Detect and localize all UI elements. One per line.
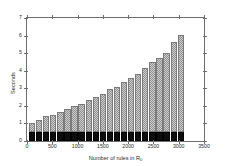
x-tick-label: 500 bbox=[48, 144, 57, 149]
y-tick-label: 4 bbox=[19, 68, 22, 73]
bar-stack bbox=[107, 89, 113, 141]
y-tick-right bbox=[203, 53, 207, 54]
bar-segment-mining bbox=[107, 89, 113, 132]
bar-stack bbox=[163, 53, 169, 141]
x-axis-title-subscript: 0 bbox=[140, 157, 142, 162]
y-tick bbox=[24, 106, 28, 107]
chart-container: Mining Preprocessing 0123456705001000150… bbox=[0, 0, 228, 166]
bar-segment-mining bbox=[36, 120, 42, 132]
bar-stack bbox=[171, 42, 177, 141]
y-tick bbox=[24, 36, 28, 37]
x-axis-title-text: Number of rules in R bbox=[89, 155, 140, 161]
y-tick bbox=[24, 71, 28, 72]
plot-inner bbox=[27, 18, 204, 141]
bar-stack bbox=[178, 35, 184, 141]
bar-segment-mining bbox=[178, 35, 184, 133]
plot-area: 012345670500100015002000250030003500 bbox=[26, 17, 205, 142]
bar-stack bbox=[121, 82, 127, 141]
bar-stack bbox=[71, 106, 77, 141]
bar-segment-preprocessing bbox=[86, 132, 92, 141]
y-tick-right bbox=[203, 123, 207, 124]
x-tick-top bbox=[52, 15, 53, 19]
bar-stack bbox=[78, 104, 84, 141]
bar-segment-preprocessing bbox=[135, 132, 141, 141]
bar-segment-mining bbox=[57, 112, 63, 132]
bar-stack bbox=[100, 94, 106, 141]
bar-segment-preprocessing bbox=[78, 132, 84, 141]
bar-segment-preprocessing bbox=[163, 132, 169, 141]
bar-segment-preprocessing bbox=[149, 132, 155, 141]
bar-segment-mining bbox=[156, 58, 162, 133]
x-tick-label: 3500 bbox=[198, 144, 210, 149]
bar-stack bbox=[64, 109, 70, 141]
y-tick-right bbox=[203, 71, 207, 72]
x-tick-top bbox=[179, 15, 180, 19]
bar-stack bbox=[29, 123, 35, 141]
y-tick-label: 1 bbox=[19, 121, 22, 126]
bar-segment-mining bbox=[171, 42, 177, 132]
y-tick-label: 5 bbox=[19, 51, 22, 56]
y-tick bbox=[24, 88, 28, 89]
x-tick-label: 1500 bbox=[97, 144, 109, 149]
x-tick-label: 1000 bbox=[72, 144, 84, 149]
bar-stack bbox=[114, 87, 120, 141]
bar-segment-mining bbox=[100, 94, 106, 133]
bar-stack bbox=[43, 116, 49, 141]
bar-segment-mining bbox=[114, 87, 120, 133]
bar-segment-mining bbox=[121, 82, 127, 132]
bar-segment-preprocessing bbox=[171, 132, 177, 141]
bar-stack bbox=[142, 68, 148, 141]
bar-stack bbox=[50, 115, 56, 141]
bar-segment-mining bbox=[86, 100, 92, 133]
bar-stack bbox=[149, 62, 155, 141]
bar-stack bbox=[156, 58, 162, 141]
bar-segment-mining bbox=[93, 97, 99, 132]
bar-stack bbox=[57, 112, 63, 141]
bar-segment-preprocessing bbox=[36, 132, 42, 141]
y-axis-title: Seconds bbox=[10, 72, 16, 94]
x-axis-title: Number of rules in R0 bbox=[26, 155, 205, 162]
bar-segment-preprocessing bbox=[121, 132, 127, 141]
y-tick-label: 6 bbox=[19, 33, 22, 38]
x-tick-label: 2000 bbox=[122, 144, 134, 149]
bar-stack bbox=[93, 97, 99, 141]
x-tick-top bbox=[204, 15, 205, 19]
bar-segment-preprocessing bbox=[114, 132, 120, 141]
bar-segment-mining bbox=[149, 62, 155, 132]
x-tick-top bbox=[103, 15, 104, 19]
bar-segment-preprocessing bbox=[93, 132, 99, 141]
bar-segment-mining bbox=[29, 123, 35, 132]
x-tick-label: 2500 bbox=[148, 144, 160, 149]
bar-segment-mining bbox=[43, 116, 49, 132]
x-tick-top bbox=[153, 15, 154, 19]
bar-segment-mining bbox=[142, 68, 148, 132]
bar-segment-mining bbox=[64, 109, 70, 132]
bar-segment-preprocessing bbox=[43, 132, 49, 141]
bar-segment-mining bbox=[135, 74, 141, 132]
bar-segment-preprocessing bbox=[50, 132, 56, 141]
y-tick-label: 0 bbox=[19, 138, 22, 143]
bar-stack bbox=[86, 100, 92, 141]
y-tick-label: 7 bbox=[19, 15, 22, 20]
x-tick-label: 3000 bbox=[173, 144, 185, 149]
bar-segment-preprocessing bbox=[57, 132, 63, 141]
bar-segment-mining bbox=[71, 106, 77, 132]
y-tick bbox=[24, 53, 28, 54]
bar-segment-preprocessing bbox=[64, 132, 70, 141]
x-tick-top bbox=[78, 15, 79, 19]
bar-segment-mining bbox=[78, 104, 84, 132]
bar-stack bbox=[128, 78, 134, 141]
bar-stack bbox=[135, 74, 141, 141]
y-tick-label: 2 bbox=[19, 103, 22, 108]
bar-segment-preprocessing bbox=[142, 132, 148, 141]
y-tick-right bbox=[203, 88, 207, 89]
y-tick-right bbox=[203, 36, 207, 37]
y-tick-label: 3 bbox=[19, 86, 22, 91]
y-tick bbox=[24, 123, 28, 124]
x-tick-label: 0 bbox=[26, 144, 29, 149]
bar-segment-preprocessing bbox=[156, 132, 162, 141]
x-tick-top bbox=[128, 15, 129, 19]
bar-segment-mining bbox=[163, 53, 169, 132]
bar-segment-mining bbox=[50, 115, 56, 133]
bar-segment-preprocessing bbox=[29, 132, 35, 141]
